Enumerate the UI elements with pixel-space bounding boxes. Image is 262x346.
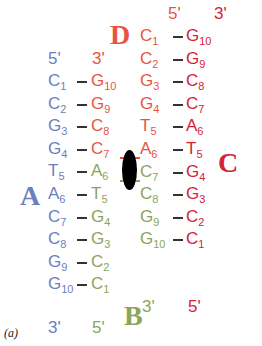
strand-a-nucleotide: C2 [48, 94, 66, 114]
strand-c-nucleotide: G9 [186, 49, 205, 69]
base-pair-bond [173, 172, 183, 174]
strand-c-nucleotide: G3 [186, 184, 205, 204]
base-pair-bond [173, 149, 183, 151]
strand-a-nucleotide: C8 [48, 229, 66, 249]
strand-d-3prime: 3' [92, 49, 105, 69]
strand-a-nucleotide: T5 [48, 161, 65, 181]
strand-b-nucleotide: C1 [91, 274, 109, 294]
strand-a-nucleotide: C7 [48, 207, 66, 227]
strand-d-5prime: 5' [168, 4, 181, 24]
strand-b-nucleotide: T5 [91, 184, 108, 204]
strand-label-a: A [20, 181, 40, 211]
strand-c-nucleotide: C2 [186, 207, 204, 227]
base-pair-bond [77, 171, 87, 173]
base-pair-bond [173, 239, 183, 241]
strand-b-nucleotide: G4 [91, 207, 110, 227]
base-pair-bond [77, 262, 87, 264]
strand-c-nucleotide: A6 [186, 116, 203, 136]
strand-label-b: B [124, 301, 143, 331]
strand-a-nucleotide: G4 [48, 139, 67, 159]
strand-a-5prime: 5' [48, 49, 61, 69]
strand-b-nucleotide: C7 [140, 162, 158, 182]
base-pair-bond [173, 217, 183, 219]
base-pair-bond [173, 104, 183, 106]
strand-d-nucleotide: G4 [140, 94, 159, 114]
strand-c-nucleotide: T5 [186, 139, 203, 159]
base-pair-bond [173, 194, 183, 196]
strand-c-5prime: 5' [188, 297, 201, 317]
strand-b-nucleotide: C8 [140, 184, 158, 204]
strand-b-nucleotide: C2 [91, 252, 109, 272]
strand-d-nucleotide: C1 [140, 26, 158, 46]
base-pair-bond [77, 126, 87, 128]
base-pair-bond [77, 239, 87, 241]
strand-b-nucleotide: G9 [140, 207, 159, 227]
strand-label-c: C [218, 148, 238, 178]
strand-d-nucleotide: C7 [91, 139, 109, 159]
strand-c-nucleotide: C1 [186, 229, 204, 249]
strand-d-nucleotide: T5 [140, 116, 157, 136]
strand-b-nucleotide: A6 [91, 161, 108, 181]
strand-b-5prime: 5' [92, 318, 105, 338]
strand-d-nucleotide: G9 [91, 94, 110, 114]
strand-a-nucleotide: G10 [48, 274, 73, 294]
base-pair-bond [77, 194, 87, 196]
strand-c-nucleotide: G4 [186, 162, 205, 182]
strand-c-nucleotide: C7 [186, 94, 204, 114]
strand-label-d: D [110, 20, 130, 50]
strand-a-3prime: 3' [48, 318, 61, 338]
strand-a-nucleotide: G3 [48, 116, 67, 136]
strand-d-nucleotide: G3 [140, 71, 159, 91]
base-pair-bond [173, 36, 183, 38]
base-pair-bond [77, 81, 87, 83]
strand-d-nucleotide: G10 [91, 71, 116, 91]
strand-c-nucleotide: C8 [186, 71, 204, 91]
strand-b-3prime: 3' [142, 297, 155, 317]
base-pair-bond [77, 284, 87, 286]
strand-d-nucleotide: C2 [140, 49, 158, 69]
strand-a-nucleotide: G9 [48, 252, 67, 272]
base-pair-bond [77, 217, 87, 219]
base-pair-bond [77, 104, 87, 106]
base-pair-bond [173, 126, 183, 128]
panel-caption: (a) [4, 326, 18, 341]
strand-b-nucleotide: G10 [140, 229, 165, 249]
dyad-axis-icon [122, 150, 137, 190]
strand-a-nucleotide: C1 [48, 71, 66, 91]
strand-c-3prime: 3' [214, 4, 227, 24]
strand-b-nucleotide: G3 [91, 229, 110, 249]
base-pair-bond [77, 149, 87, 151]
strand-c-nucleotide: G10 [186, 26, 211, 46]
base-pair-bond [173, 81, 183, 83]
strand-d-nucleotide: A6 [140, 139, 157, 159]
strand-d-nucleotide: C8 [91, 116, 109, 136]
base-pair-bond [173, 59, 183, 61]
strand-a-nucleotide: A6 [48, 184, 65, 204]
